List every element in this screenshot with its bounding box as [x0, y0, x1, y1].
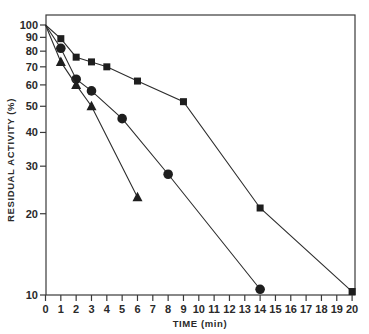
square-marker — [88, 58, 95, 65]
x-axis-ticks: 01234567891011121314151617181920 — [42, 295, 358, 315]
x-axis-label: TIME (min) — [173, 318, 228, 329]
triangle-marker — [56, 56, 66, 65]
plot-frame — [46, 15, 355, 295]
circle-marker — [117, 114, 127, 124]
circle-marker — [163, 169, 173, 179]
square-marker — [103, 63, 110, 70]
x-tick-label: 16 — [285, 303, 297, 315]
square-marker — [134, 78, 141, 85]
x-tick-label: 4 — [104, 303, 111, 315]
x-tick-label: 1 — [58, 303, 64, 315]
x-tick-label: 5 — [119, 303, 125, 315]
y-tick-label: 40 — [26, 126, 38, 138]
y-tick-label: 70 — [26, 61, 38, 73]
series-squares — [46, 25, 356, 295]
chart: 102030405060708090100 012345678910111213… — [0, 0, 369, 334]
x-tick-label: 11 — [208, 303, 220, 315]
x-tick-label: 2 — [73, 303, 79, 315]
y-axis-ticks: 102030405060708090100 — [20, 19, 46, 301]
square-marker — [73, 54, 80, 61]
x-tick-label: 13 — [239, 303, 251, 315]
y-tick-label: 60 — [26, 79, 38, 91]
y-tick-label: 50 — [26, 100, 38, 112]
x-tick-label: 19 — [331, 303, 343, 315]
x-tick-label: 7 — [150, 303, 156, 315]
x-tick-label: 8 — [165, 303, 171, 315]
y-tick-label: 20 — [26, 208, 38, 220]
y-tick-label: 80 — [26, 45, 38, 57]
x-tick-label: 20 — [346, 303, 358, 315]
series-line — [46, 25, 261, 289]
series-circles — [46, 25, 265, 294]
triangle-marker — [132, 192, 142, 202]
square-marker — [57, 35, 64, 42]
square-marker — [257, 205, 264, 212]
y-tick-label: 10 — [26, 289, 38, 301]
square-marker — [180, 98, 187, 105]
x-tick-label: 15 — [269, 303, 281, 315]
y-tick-label: 90 — [26, 31, 38, 43]
x-tick-label: 10 — [193, 303, 205, 315]
x-tick-label: 0 — [42, 303, 48, 315]
x-tick-label: 18 — [315, 303, 327, 315]
x-tick-label: 17 — [300, 303, 312, 315]
circle-marker — [56, 43, 66, 53]
x-tick-label: 14 — [254, 303, 267, 315]
square-marker — [349, 288, 356, 295]
x-tick-label: 12 — [223, 303, 235, 315]
x-tick-label: 3 — [88, 303, 94, 315]
y-axis-label: RESIDUAL ACTIVITY (%) — [5, 98, 16, 222]
circle-marker — [255, 284, 265, 294]
x-tick-label: 9 — [180, 303, 186, 315]
series-layer — [46, 25, 356, 295]
y-tick-label: 100 — [20, 19, 38, 31]
x-tick-label: 6 — [134, 303, 140, 315]
y-tick-label: 30 — [26, 160, 38, 172]
circle-marker — [87, 86, 97, 96]
